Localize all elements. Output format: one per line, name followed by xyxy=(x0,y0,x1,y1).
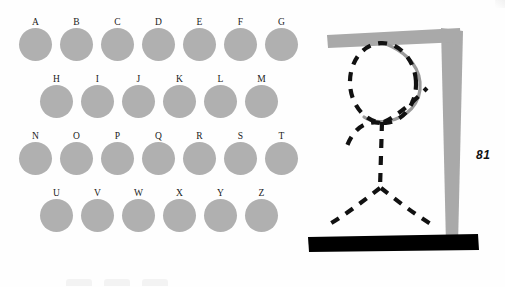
letter-disc[interactable] xyxy=(265,142,298,175)
word-blank-line xyxy=(66,279,92,286)
letter-disc[interactable] xyxy=(163,199,196,232)
letter-disc[interactable] xyxy=(183,142,216,175)
letter-disc[interactable] xyxy=(81,85,114,118)
letter-disc[interactable] xyxy=(81,199,114,232)
letter-cell-b[interactable]: B xyxy=(60,17,93,61)
letter-disc[interactable] xyxy=(245,85,278,118)
letter-disc[interactable] xyxy=(60,28,93,61)
letter-label: Y xyxy=(204,188,237,199)
letter-disc[interactable] xyxy=(142,28,175,61)
letter-disc[interactable] xyxy=(183,28,216,61)
letter-disc[interactable] xyxy=(142,142,175,175)
letter-cell-h[interactable]: H xyxy=(40,74,73,118)
page-canvas: A B C D E F G xyxy=(0,0,505,287)
gallows-vertical-post xyxy=(441,28,463,245)
letter-row: H I J K L M xyxy=(40,74,286,118)
page-number: 81 xyxy=(476,148,490,162)
word-blank-lines xyxy=(66,279,168,286)
letter-disc[interactable] xyxy=(19,142,52,175)
letter-cell-k[interactable]: K xyxy=(163,74,196,118)
letter-disc[interactable] xyxy=(224,28,257,61)
letter-label: V xyxy=(81,188,114,199)
word-blank-line xyxy=(104,279,130,286)
letter-cell-z[interactable]: Z xyxy=(245,188,278,232)
letter-disc[interactable] xyxy=(204,85,237,118)
letter-label: T xyxy=(265,131,298,142)
letter-disc[interactable] xyxy=(163,85,196,118)
letter-cell-i[interactable]: I xyxy=(81,74,114,118)
hangman-body xyxy=(380,122,382,188)
letter-disc[interactable] xyxy=(245,199,278,232)
letter-disc[interactable] xyxy=(101,28,134,61)
letter-disc[interactable] xyxy=(60,142,93,175)
letter-cell-p[interactable]: P xyxy=(101,131,134,175)
letter-cell-l[interactable]: L xyxy=(204,74,237,118)
letter-label: D xyxy=(142,17,175,28)
letter-disc[interactable] xyxy=(122,85,155,118)
letter-label: J xyxy=(122,74,155,85)
letter-disc[interactable] xyxy=(40,85,73,118)
gallows-base-platform xyxy=(308,234,479,252)
hangman-gallows-illustration xyxy=(300,0,505,287)
letter-disc[interactable] xyxy=(40,199,73,232)
letter-cell-j[interactable]: J xyxy=(122,74,155,118)
letter-disc[interactable] xyxy=(19,28,52,61)
letter-disc[interactable] xyxy=(265,28,298,61)
letter-cell-v[interactable]: V xyxy=(81,188,114,232)
alphabet-letter-board: A B C D E F G xyxy=(0,0,310,287)
letter-label: S xyxy=(224,131,257,142)
letter-cell-q[interactable]: Q xyxy=(142,131,175,175)
letter-cell-f[interactable]: F xyxy=(224,17,257,61)
hangman-rope xyxy=(364,44,420,122)
letter-label: L xyxy=(204,74,237,85)
letter-cell-c[interactable]: C xyxy=(101,17,134,61)
letter-label: Z xyxy=(245,188,278,199)
letter-label: P xyxy=(101,131,134,142)
letter-cell-g[interactable]: G xyxy=(265,17,298,61)
letter-label: I xyxy=(81,74,114,85)
letter-cell-u[interactable]: U xyxy=(40,188,73,232)
letter-label: H xyxy=(40,74,73,85)
letter-disc[interactable] xyxy=(101,142,134,175)
letter-cell-r[interactable]: R xyxy=(183,131,216,175)
letter-label: C xyxy=(101,17,134,28)
letter-cell-m[interactable]: M xyxy=(245,74,278,118)
letter-cell-x[interactable]: X xyxy=(163,188,196,232)
letter-label: B xyxy=(60,17,93,28)
gallows-horizontal-beam xyxy=(327,28,461,48)
hangman-right-leg xyxy=(381,188,434,226)
letter-label: M xyxy=(245,74,278,85)
letter-cell-o[interactable]: O xyxy=(60,131,93,175)
letter-cell-y[interactable]: Y xyxy=(204,188,237,232)
letter-cell-n[interactable]: N xyxy=(19,131,52,175)
letter-cell-e[interactable]: E xyxy=(183,17,216,61)
letter-label: N xyxy=(19,131,52,142)
letter-row: N O P Q R S T xyxy=(19,131,306,175)
hangman-left-leg xyxy=(328,188,380,225)
letter-disc[interactable] xyxy=(204,199,237,232)
letter-cell-a[interactable]: A xyxy=(19,17,52,61)
letter-disc[interactable] xyxy=(224,142,257,175)
letter-label: A xyxy=(19,17,52,28)
letter-cell-t[interactable]: T xyxy=(265,131,298,175)
letter-row: A B C D E F G xyxy=(19,17,306,61)
letter-cell-s[interactable]: S xyxy=(224,131,257,175)
letter-label: E xyxy=(183,17,216,28)
letter-label: K xyxy=(163,74,196,85)
letter-label: O xyxy=(60,131,93,142)
letter-disc[interactable] xyxy=(122,199,155,232)
letter-label: G xyxy=(265,17,298,28)
letter-cell-d[interactable]: D xyxy=(142,17,175,61)
letter-label: R xyxy=(183,131,216,142)
letter-cell-w[interactable]: W xyxy=(122,188,155,232)
letter-label: Q xyxy=(142,131,175,142)
letter-label: F xyxy=(224,17,257,28)
letter-row: U V W X Y Z xyxy=(40,188,286,232)
word-blank-line xyxy=(142,279,168,286)
letter-label: W xyxy=(122,188,155,199)
hangman-left-arm xyxy=(345,122,380,152)
letter-label: U xyxy=(40,188,73,199)
hangman-svg xyxy=(300,0,505,287)
letter-label: X xyxy=(163,188,196,199)
